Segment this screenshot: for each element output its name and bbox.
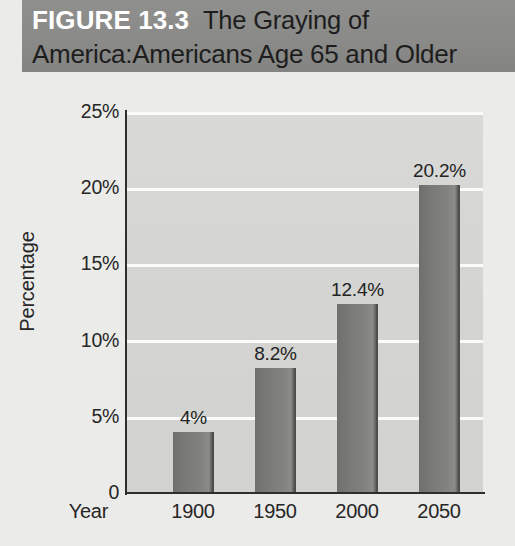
x-axis-title: Year [33, 500, 108, 523]
y-axis-line [125, 110, 127, 495]
y-tick-20: 20% [61, 176, 119, 199]
x-tick-2000: 2000 [317, 500, 397, 523]
x-tick-2050: 2050 [399, 500, 479, 523]
bar-label-1900: 4% [153, 407, 234, 429]
bar-label-2000: 12.4% [317, 279, 398, 301]
x-tick-1950: 1950 [235, 500, 315, 523]
y-axis-title: Percentage [16, 217, 39, 347]
y-tick-5: 5% [61, 405, 119, 428]
x-tick-1900: 1900 [153, 500, 233, 523]
y-tick-25: 25% [61, 100, 119, 123]
bar-1950[interactable] [255, 368, 296, 493]
bar-2000[interactable] [337, 304, 378, 493]
bar-label-2050: 20.2% [399, 160, 480, 182]
bar-1900[interactable] [173, 432, 214, 493]
y-tick-10: 10% [61, 329, 119, 352]
plot-area: 4% 8.2% 12.4% 20.2% [127, 112, 483, 493]
bar-2050[interactable] [419, 185, 460, 493]
gridline-25 [127, 112, 483, 115]
y-tick-15: 15% [61, 252, 119, 275]
y-axis-tick-labels: 25% 20% 15% 10% 5% 0 [57, 0, 119, 546]
bar-label-1950: 8.2% [235, 343, 316, 365]
figure-container: FIGURE 13.3 The Graying of America:Ameri… [0, 0, 515, 546]
x-axis-line [125, 492, 485, 494]
figure-title-text-line-1: The Graying of [203, 6, 369, 34]
